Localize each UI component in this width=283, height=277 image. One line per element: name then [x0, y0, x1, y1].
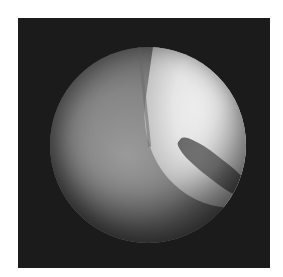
image-frame	[18, 18, 270, 268]
vignette	[50, 47, 246, 243]
endoscope-view	[50, 47, 246, 243]
